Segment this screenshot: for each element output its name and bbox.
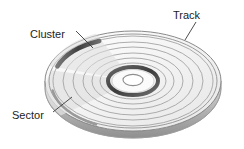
track-leader-line — [185, 22, 196, 40]
disk-platter-diagram: Track Cluster Sector — [0, 0, 244, 149]
diagram-canvas: Track Cluster Sector — [0, 0, 244, 149]
spindle-hole — [123, 74, 143, 85]
cluster-label: Cluster — [30, 28, 65, 40]
track-label: Track — [173, 9, 201, 21]
sector-label: Sector — [12, 109, 44, 121]
